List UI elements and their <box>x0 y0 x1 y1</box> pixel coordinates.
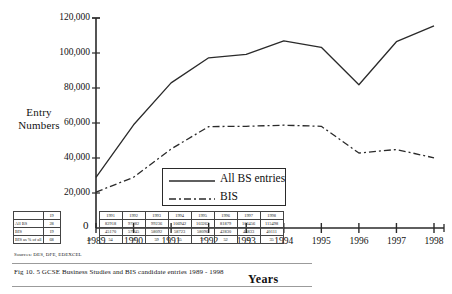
table-cell: 1993 <box>145 212 168 220</box>
table-cell: 37 <box>191 236 214 244</box>
table-cell: 99236 <box>145 220 168 228</box>
y-tick-label: 120,000 <box>28 12 90 22</box>
table-cell: 97282 <box>122 220 145 228</box>
caption-rule-bottom <box>12 286 312 287</box>
table-row-label <box>14 212 44 220</box>
table-cell: 1996 <box>214 212 237 220</box>
x-tick-label: 1996 <box>343 236 375 246</box>
table-cell: 59 <box>145 236 168 244</box>
table-cell: 55 <box>168 236 191 244</box>
data-table: 1919911992199319941995199619971998All BS… <box>13 211 284 244</box>
table-cell: 106942 <box>168 220 191 228</box>
table-cell: 82918 <box>99 220 122 228</box>
table-row: All BS2882918972829923610694210326281879… <box>14 220 284 228</box>
sources-note: Sources: DES, DFE, EDEXCEL <box>14 252 82 257</box>
legend-label-all-bs-entries: All BS entries <box>220 172 285 184</box>
chart-legend: All BS entries BIS <box>162 168 286 206</box>
table-cell-partial: 68 <box>43 236 60 244</box>
chart-plot <box>0 0 452 294</box>
table-cell-partial: 28 <box>43 220 60 228</box>
table-row: 1919911992199319941995199619971998 <box>14 212 284 220</box>
table-cell-spacer <box>80 228 100 236</box>
table-cell: 58096 <box>191 228 214 236</box>
y-tick-label: 60,000 <box>28 117 90 127</box>
table-cell-spacer <box>80 220 100 228</box>
legend-item-bis: BIS <box>163 188 285 207</box>
table-row-label: BIS as % of all <box>14 236 44 244</box>
table-cell: 35 <box>260 236 283 244</box>
x-tick-label: 1995 <box>305 236 337 246</box>
table-cell-partial: 19 <box>43 228 60 236</box>
series-line-all-bs-entries <box>96 26 434 177</box>
x-tick-label: 1997 <box>380 236 412 246</box>
table-cell: 1995 <box>191 212 214 220</box>
x-tick-label: 1998 <box>418 236 450 246</box>
table-cell: 1992 <box>122 212 145 220</box>
table-cell: 58723 <box>168 228 191 236</box>
y-tick-label: 100,000 <box>28 47 90 57</box>
legend-swatch-solid-icon <box>169 179 215 181</box>
table-cell: 81879 <box>214 220 237 228</box>
legend-label-bis: BIS <box>220 190 238 202</box>
table-row-label: BIS <box>14 228 44 236</box>
legend-swatch-dash-dot-icon <box>169 197 215 199</box>
y-tick-label: 80,000 <box>28 82 90 92</box>
table-cell: 45170 <box>99 228 122 236</box>
table-cell: 40111 <box>260 228 283 236</box>
caption-rule-top <box>12 263 312 264</box>
table-cell: 44833 <box>237 228 260 236</box>
table-cell-partial: 19 <box>43 212 60 220</box>
y-tick-label: 40,000 <box>28 152 90 162</box>
table-cell: 1997 <box>237 212 260 220</box>
table-cell-spacer <box>80 212 100 220</box>
table-cell-spacer <box>60 212 80 220</box>
table-cell: 59 <box>122 236 145 244</box>
figure-caption: Fig 10. 5 GCSE Business Studies and BIS … <box>14 268 224 276</box>
table-cell-spacer <box>60 236 80 244</box>
table-cell: 1991 <box>99 212 122 220</box>
table-cell: 1994 <box>168 212 191 220</box>
table-row-label: All BS <box>14 220 44 228</box>
table-cell-spacer <box>60 220 80 228</box>
table-cell-spacer <box>60 228 80 236</box>
table-cell: 103262 <box>191 220 214 228</box>
table-cell: 52 <box>214 236 237 244</box>
x-axis-title: Years <box>248 272 279 287</box>
table-cell: 58092 <box>145 228 168 236</box>
table-cell: 42830 <box>214 228 237 236</box>
table-cell: 57945 <box>122 228 145 236</box>
table-row: BIS as % of all68485459595537524235 <box>14 236 284 244</box>
figure-container: Entry Numbers 20,00040,00060,00080,00010… <box>0 0 452 294</box>
table-cell-spacer: 48 <box>80 236 100 244</box>
table-cell: 42 <box>237 236 260 244</box>
table-cell: 115498 <box>260 220 283 228</box>
y-tick-label: 20,000 <box>28 187 90 197</box>
table-cell: 106456 <box>237 220 260 228</box>
table-cell: 1998 <box>260 212 283 220</box>
table-row: BIS1945170579455809258723580964283044833… <box>14 228 284 236</box>
table-cell: 54 <box>99 236 122 244</box>
legend-item-all-bs-entries: All BS entries <box>163 170 285 189</box>
